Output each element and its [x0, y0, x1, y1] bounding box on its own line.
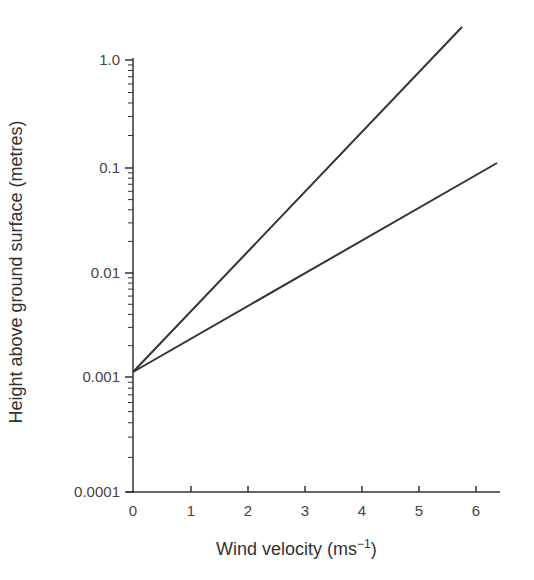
- y-tick-labels: 1.0 0.1 0.01 0.001 0.0001: [74, 51, 120, 500]
- svg-text:1.0: 1.0: [99, 51, 120, 68]
- y-major-ticks: [125, 60, 133, 492]
- svg-text:0.001: 0.001: [82, 368, 120, 385]
- svg-text:0.0001: 0.0001: [74, 483, 120, 500]
- svg-text:0.1: 0.1: [99, 159, 120, 176]
- svg-text:4: 4: [358, 502, 366, 519]
- svg-text:0: 0: [129, 502, 137, 519]
- shallow-profile-line: [133, 163, 497, 372]
- x-axis-title: Wind velocity (ms−1): [216, 537, 377, 559]
- svg-text:2: 2: [244, 502, 252, 519]
- svg-text:6: 6: [472, 502, 480, 519]
- svg-text:5: 5: [415, 502, 423, 519]
- svg-text:1: 1: [187, 502, 195, 519]
- x-tick-labels: 0 1 2 3 4 5 6: [129, 502, 480, 519]
- y-axis-title: Height above ground surface (metres): [6, 120, 26, 423]
- svg-text:3: 3: [301, 502, 309, 519]
- svg-text:0.01: 0.01: [91, 264, 120, 281]
- chart: 1.0 0.1 0.01 0.001 0.0001 0 1 2 3 4 5 6 …: [0, 0, 534, 580]
- x-ticks: [191, 486, 476, 492]
- steep-profile-line: [133, 27, 462, 372]
